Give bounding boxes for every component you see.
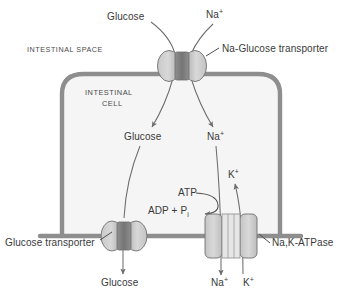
adp-pi-label: ADP + Pi — [148, 206, 189, 216]
potassium-cytosol-charge: + — [235, 168, 239, 175]
na-k-atpase-label: Na,K-ATPase — [272, 238, 334, 248]
arrow-sodium-in-apical — [191, 24, 213, 54]
glucose-basal-label: Glucose — [101, 278, 138, 288]
adp-pi-subscript: i — [187, 211, 189, 218]
potassium-basal-symbol: K — [243, 277, 250, 288]
potassium-cytosol-symbol: K — [228, 169, 235, 180]
na-k-atpase-graphic[interactable] — [205, 214, 257, 258]
intestinal-cell-label-line1: INTESTINAL — [85, 89, 133, 96]
adp-pi-text: ADP + P — [148, 205, 187, 216]
na-k-atpase-rest: ,K-ATPase — [285, 237, 334, 248]
glucose-transporter-label: Glucose transporter — [5, 238, 95, 248]
na-glucose-transporter-label: Na-Glucose transporter — [222, 44, 328, 54]
sodium-cytosol-symbol: Na — [207, 131, 220, 142]
potassium-basal-charge: + — [250, 276, 254, 283]
glucose-apical-label: Glucose — [107, 12, 144, 22]
sodium-apical-symbol: Na — [206, 9, 219, 20]
sodium-basal-charge: + — [224, 276, 228, 283]
sodium-apical-label: Na+ — [206, 10, 223, 20]
transport-diagram: INTESTINAL SPACE INTESTINAL CELL Glucose… — [0, 0, 339, 298]
sodium-apical-charge: + — [219, 8, 223, 15]
leader-na-glucose-transporter — [206, 48, 219, 56]
glucose-transporter-graphic[interactable] — [101, 221, 147, 251]
na-glucose-transporter-graphic[interactable] — [158, 51, 207, 82]
potassium-cytosol-label: K+ — [228, 170, 239, 180]
sodium-basal-symbol: Na — [211, 277, 224, 288]
sodium-basal-label: Na+ — [211, 278, 228, 288]
intestinal-cell-label-line2: CELL — [102, 100, 123, 107]
atp-label: ATP — [178, 188, 197, 198]
sodium-cytosol-charge: + — [220, 130, 224, 137]
arrow-glucose-in-apical — [151, 22, 175, 54]
sodium-cytosol-label: Na+ — [207, 132, 224, 142]
na-k-atpase-na: Na — [272, 237, 285, 248]
glucose-cytosol-label: Glucose — [124, 132, 161, 142]
intestinal-space-label: INTESTINAL SPACE — [27, 46, 103, 53]
potassium-basal-label: K+ — [243, 278, 254, 288]
